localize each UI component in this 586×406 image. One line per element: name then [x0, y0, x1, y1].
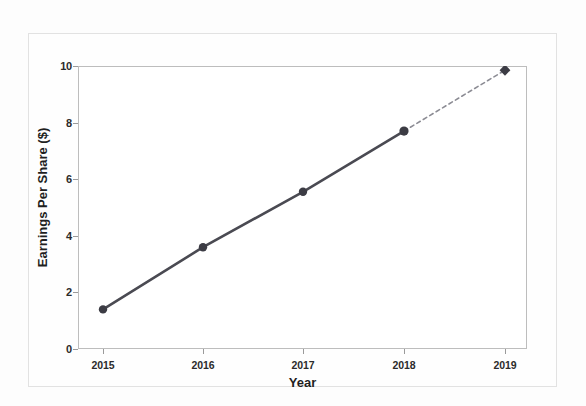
- y-tick-0: 0: [50, 343, 72, 355]
- y-tick-mark: [73, 349, 78, 350]
- x-tick-label: 2019: [494, 359, 517, 371]
- y-tick-2: 2: [50, 286, 72, 298]
- series-actual-line: [103, 131, 404, 309]
- x-tick-2017: 2017: [273, 355, 333, 373]
- x-tick-label: 2018: [393, 359, 416, 371]
- y-tick-8: 8: [50, 117, 72, 129]
- x-tick-mark: [203, 349, 204, 354]
- data-point-2019-diamond: [500, 66, 511, 76]
- x-tick-label: 2015: [92, 359, 115, 371]
- series-projected-line: [404, 70, 505, 131]
- x-tick-2015: 2015: [73, 355, 133, 373]
- y-tick-label: 8: [50, 117, 72, 129]
- data-point-2018: [399, 127, 408, 136]
- chart-figure: Earnings Per Share ($) 10 8 6 4 2 0: [0, 0, 586, 406]
- y-tick-4: 4: [50, 230, 72, 242]
- x-tick-label: 2017: [292, 359, 315, 371]
- x-tick-mark: [505, 349, 506, 354]
- x-tick-mark: [303, 349, 304, 354]
- plot-svg: [78, 66, 527, 349]
- x-tick-label: 2016: [192, 359, 215, 371]
- x-tick-2018: 2018: [374, 355, 434, 373]
- y-tick-label: 2: [50, 286, 72, 298]
- x-tick-2016: 2016: [173, 355, 233, 373]
- data-point-2015: [99, 305, 107, 313]
- x-tick-mark: [404, 349, 405, 354]
- x-axis-label: Year: [78, 375, 527, 390]
- y-tick-label: 10: [50, 60, 72, 72]
- y-tick-label: 4: [50, 230, 72, 242]
- x-tick-mark: [103, 349, 104, 354]
- y-tick-label: 0: [50, 343, 72, 355]
- y-axis-label: Earnings Per Share ($): [35, 108, 50, 288]
- y-tick-label: 6: [50, 173, 72, 185]
- y-tick-10: 10: [50, 60, 72, 72]
- x-tick-2019: 2019: [475, 355, 535, 373]
- y-tick-6: 6: [50, 173, 72, 185]
- data-point-2016: [199, 243, 207, 251]
- y-axis-label-holder: Earnings Per Share ($): [12, 0, 42, 406]
- data-point-2017: [299, 188, 307, 196]
